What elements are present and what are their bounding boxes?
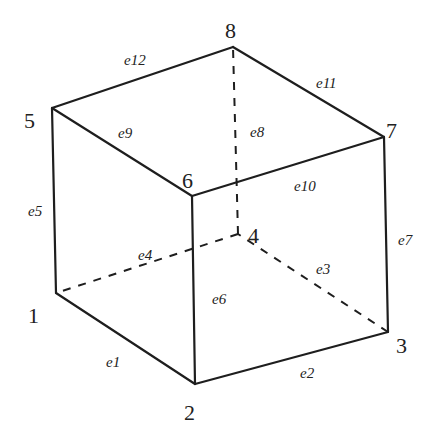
edge-e7 (384, 137, 388, 332)
edge-label-e3: e3 (316, 261, 330, 277)
node-label-8: 8 (225, 18, 236, 43)
edge-labels-group: e1e2e3e4e5e6e7e8e9e10e11e12 (28, 52, 414, 381)
edge-e2 (195, 332, 388, 384)
edge-label-e8: e8 (250, 124, 265, 140)
edge-label-e7: e7 (398, 232, 414, 248)
node-labels-group: 12345678 (24, 18, 407, 425)
edge-label-e10: e10 (294, 178, 316, 194)
edge-e5 (52, 108, 56, 293)
node-label-6: 6 (182, 168, 193, 193)
edge-e8-hidden (233, 47, 238, 234)
edge-e4-hidden (56, 234, 238, 293)
edge-e1 (56, 293, 195, 384)
edge-e6 (192, 196, 195, 384)
edge-label-e4: e4 (138, 247, 153, 263)
edges-group (52, 47, 388, 384)
edge-label-e12: e12 (124, 52, 146, 68)
hexahedron-diagram: e1e2e3e4e5e6e7e8e9e10e11e12 12345678 (0, 0, 441, 443)
edge-label-e1: e1 (106, 354, 120, 370)
edge-label-e2: e2 (300, 365, 315, 381)
edge-e10 (192, 137, 384, 196)
edge-label-e5: e5 (28, 203, 43, 219)
edge-e3-hidden (238, 234, 388, 332)
node-label-1: 1 (28, 303, 39, 328)
node-label-4: 4 (248, 223, 259, 248)
node-label-2: 2 (184, 400, 195, 425)
edge-label-e9: e9 (118, 125, 133, 141)
node-label-5: 5 (24, 108, 35, 133)
node-label-7: 7 (386, 118, 397, 143)
edge-label-e11: e11 (316, 75, 337, 91)
edge-e9 (52, 108, 192, 196)
node-label-3: 3 (396, 333, 407, 358)
edge-label-e6: e6 (212, 291, 227, 307)
